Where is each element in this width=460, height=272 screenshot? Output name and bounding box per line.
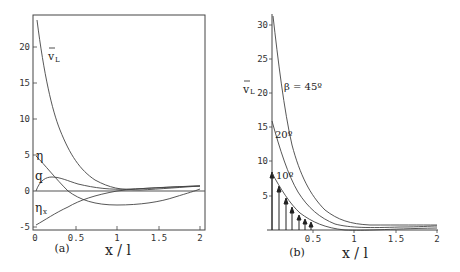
xtick-label: 1 <box>351 234 356 244</box>
label-eta-x: η <box>35 201 42 215</box>
ytick-label: 10 <box>257 156 268 166</box>
panel-b-caption: (b) <box>289 246 305 259</box>
panel-a: 20 15 10 5 0 -5 0 0.5 1 1.5 2 v L η q η … <box>19 15 205 258</box>
curve-eta-x <box>36 186 200 225</box>
label-vl: v <box>242 83 250 96</box>
ytick-label: 10 <box>19 114 30 124</box>
label-beta-20: 20º <box>275 129 293 140</box>
ytick-label: 0 <box>25 186 30 196</box>
panel-b-xlabel: x / l <box>342 245 369 261</box>
ytick-label: 25 <box>257 54 268 64</box>
ytick-label: 5 <box>263 191 268 201</box>
xtick-label: 0.5 <box>305 234 321 244</box>
curve-q <box>36 177 200 191</box>
panel-b: 30 25 20 15 10 5 0.5 1 1.5 2 v L β = 45º… <box>242 14 440 261</box>
ytick-label: -5 <box>19 222 30 232</box>
xtick-label: 2 <box>434 234 439 244</box>
curve-vl <box>37 20 200 190</box>
panel-a-xlabel: x / l <box>105 242 132 258</box>
ytick-label: 15 <box>19 78 30 88</box>
label-beta-10: 10º <box>276 170 294 181</box>
curve-beta-10 <box>272 173 437 230</box>
curve-beta-20 <box>272 121 437 228</box>
xtick-label: 2 <box>197 233 202 243</box>
panel-a-yticks <box>33 47 200 230</box>
ytick-label: 20 <box>257 88 268 98</box>
ytick-label: 15 <box>257 122 268 132</box>
ytick-label: 5 <box>25 150 30 160</box>
label-vl-sub: L <box>250 88 255 96</box>
curve-beta-45 <box>273 16 437 225</box>
xtick-label: 0 <box>32 233 37 243</box>
panel-a-frame <box>33 15 205 230</box>
panel-b-ticks <box>269 25 437 233</box>
label-eta-x-sub: x <box>43 208 47 216</box>
xtick-label: 1.5 <box>151 233 167 243</box>
xtick-label: 1.5 <box>388 234 404 244</box>
figure: 20 15 10 5 0 -5 0 0.5 1 1.5 2 v L η q η … <box>0 0 460 272</box>
label-vl: v <box>47 50 55 63</box>
xtick-label: 0.5 <box>68 233 84 243</box>
label-beta-45: β = 45º <box>284 81 322 92</box>
curve-eta <box>36 156 200 205</box>
ytick-label: 30 <box>257 20 268 30</box>
ytick-label: 20 <box>19 42 30 52</box>
panel-a-caption: (a) <box>54 242 69 255</box>
label-q: q <box>35 169 43 183</box>
label-eta: η <box>36 149 43 163</box>
label-vl-sub: L <box>55 56 60 64</box>
